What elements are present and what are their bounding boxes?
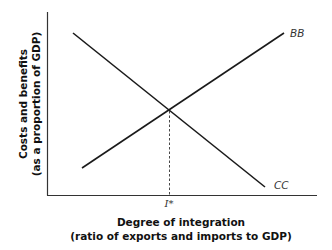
integration-cost-benefit-chart: BB CC I* Degree of integration (ratio of… — [0, 0, 332, 250]
x-axis-subtitle: (ratio of exports and imports to GDP) — [70, 230, 292, 242]
bb-line — [82, 33, 284, 168]
bb-label: BB — [290, 27, 304, 39]
x-axis-title: Degree of integration — [117, 216, 245, 228]
istar-tick-label: I* — [164, 198, 174, 209]
cc-label: CC — [274, 179, 289, 191]
y-axis-subtitle: (as a proportion of GDP) — [30, 32, 42, 177]
y-axis-title: Costs and benefits — [17, 49, 29, 159]
